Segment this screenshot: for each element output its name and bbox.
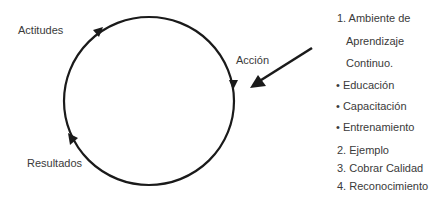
list-item: 2. Ejemplo — [337, 144, 389, 156]
list-item: 3. Cobrar Calidad — [337, 162, 423, 174]
label-actitudes: Actitudes — [18, 24, 63, 36]
arrow-head-right-icon — [229, 80, 238, 90]
list-item: • Entrenamiento — [336, 121, 414, 133]
label-accion: Acción — [236, 54, 269, 66]
list-item: Continuo. — [346, 57, 393, 69]
list-item: 4. Reconocimiento — [337, 180, 428, 192]
list-item: Aprendizaje — [346, 35, 404, 47]
list-item: 1. Ambiente de — [337, 12, 410, 24]
list-item: • Educación — [336, 79, 394, 91]
cycle-diagram: Actitudes Acción Resultados 1. Ambiente … — [0, 0, 440, 200]
cycle-circle — [64, 17, 234, 185]
list-item: • Capacitación — [336, 100, 407, 112]
label-resultados: Resultados — [27, 157, 82, 169]
